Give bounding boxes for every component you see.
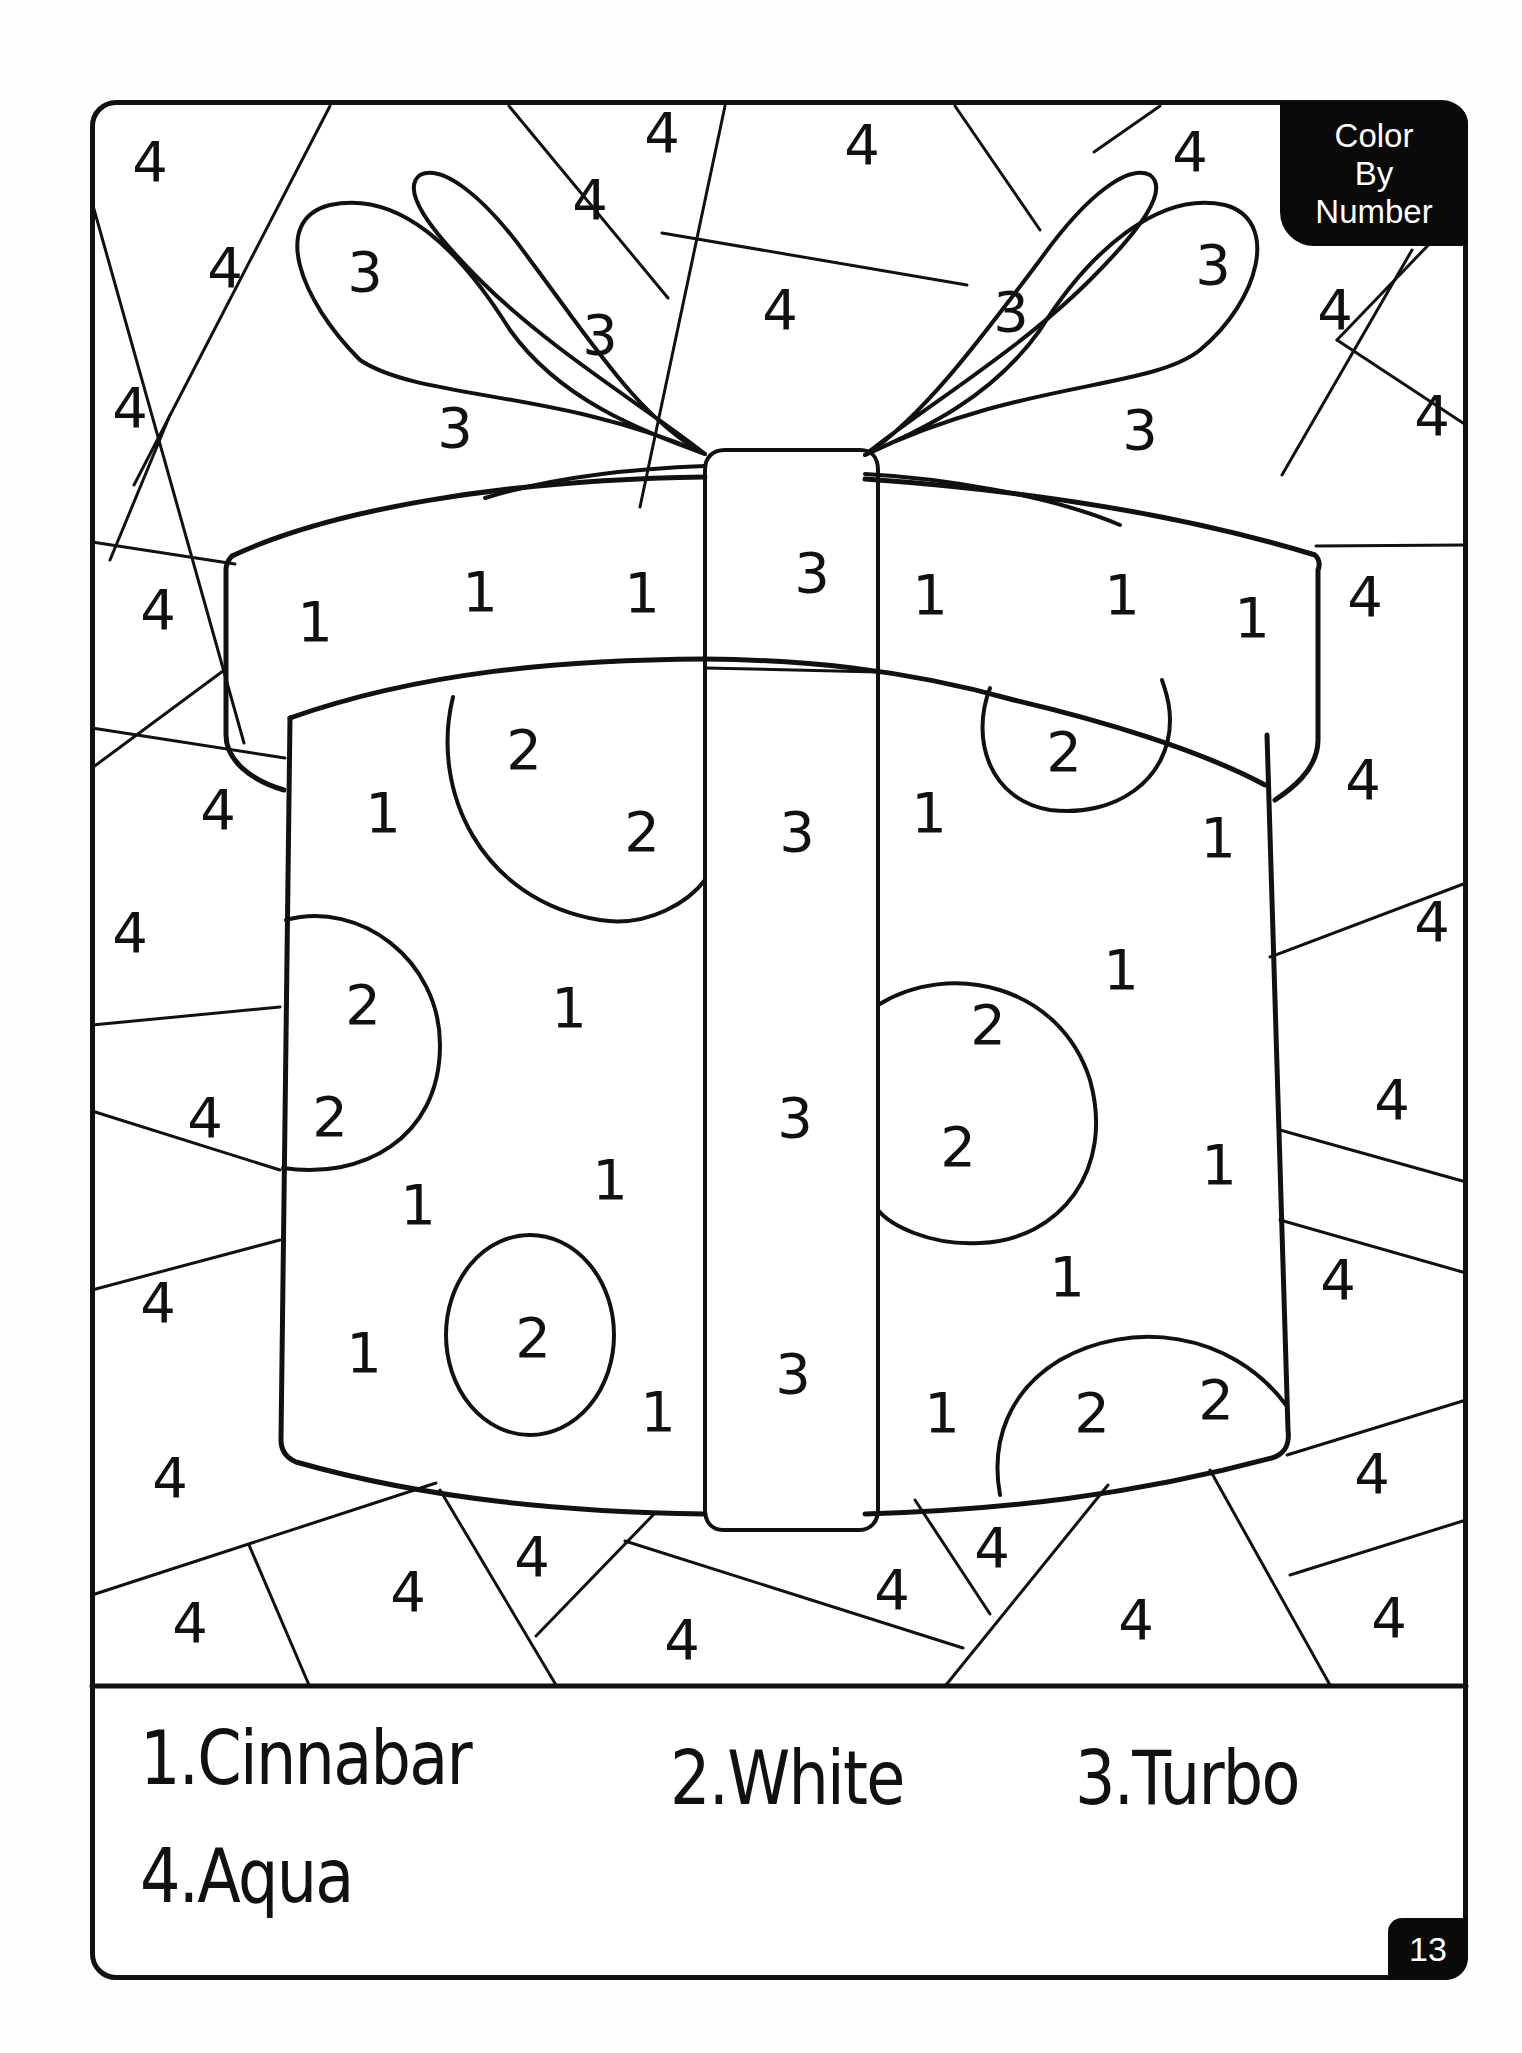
region-number-background: 4 — [1374, 1072, 1410, 1128]
region-number-box: 1 — [592, 1152, 628, 1208]
region-number-lid: 1 — [297, 594, 333, 650]
region-number-background: 4 — [1345, 752, 1381, 808]
region-number-box: 2 — [624, 804, 660, 860]
region-number-lid: 1 — [912, 567, 948, 623]
legend-item-3: 3.Turbo — [1075, 1735, 1299, 1821]
region-number-background: 4 — [1320, 1252, 1356, 1308]
legend-item-1: 1.Cinnabar — [140, 1715, 471, 1801]
region-number-background: 4 — [1414, 894, 1450, 950]
region-number-background: 4 — [1317, 282, 1353, 338]
region-number-bow: 3 — [1122, 402, 1158, 458]
region-number-box: 1 — [924, 1385, 960, 1441]
region-number-background: 4 — [572, 172, 608, 228]
region-number-background: 4 — [152, 1450, 188, 1506]
region-number-box: 3 — [777, 1090, 813, 1146]
region-number-background: 4 — [140, 582, 176, 638]
region-number-background: 4 — [874, 1562, 910, 1618]
badge-line-3: Number — [1315, 193, 1432, 231]
region-number-background: 4 — [1414, 388, 1450, 444]
region-number-box: 1 — [1103, 942, 1139, 998]
region-number-background: 4 — [187, 1090, 223, 1146]
region-number-background: 4 — [200, 782, 236, 838]
bow — [297, 173, 1257, 525]
region-number-box: 2 — [312, 1089, 348, 1145]
region-number-background: 4 — [1172, 124, 1208, 180]
region-number-box: 3 — [775, 1346, 811, 1402]
region-number-box: 1 — [365, 785, 401, 841]
region-number-box: 3 — [779, 804, 815, 860]
region-number-box: 1 — [911, 785, 947, 841]
region-number-background: 4 — [644, 105, 680, 161]
region-number-lid: 1 — [462, 564, 498, 620]
region-number-box: 2 — [345, 977, 381, 1033]
region-number-background: 4 — [514, 1529, 550, 1585]
region-number-background: 4 — [974, 1520, 1010, 1576]
background-lines — [92, 106, 1466, 1686]
region-number-box: 2 — [940, 1119, 976, 1175]
region-number-box: 1 — [551, 980, 587, 1036]
gift-lid — [226, 477, 1319, 800]
region-number-background: 4 — [762, 282, 798, 338]
region-number-box: 1 — [1200, 810, 1236, 866]
region-number-background: 4 — [112, 380, 148, 436]
color-by-number-badge: Color By Number — [1280, 102, 1468, 246]
region-number-background: 4 — [844, 117, 880, 173]
legend-item-2: 2.White — [670, 1735, 904, 1821]
region-number-box: 2 — [1198, 1372, 1234, 1428]
region-number-background: 4 — [172, 1595, 208, 1651]
region-number-background: 4 — [390, 1564, 426, 1620]
region-number-background: 4 — [1118, 1592, 1154, 1648]
region-number-bow: 3 — [437, 400, 473, 456]
region-number-box: 2 — [506, 722, 542, 778]
region-number-background: 4 — [1371, 1590, 1407, 1646]
region-number-background: 4 — [664, 1612, 700, 1668]
badge-line-1: Color — [1335, 117, 1414, 155]
region-number-box: 1 — [400, 1177, 436, 1233]
region-number-lid: 3 — [794, 545, 830, 601]
region-number-bow: 3 — [347, 244, 383, 300]
region-number-box: 1 — [1049, 1249, 1085, 1305]
region-number-box: 1 — [1201, 1137, 1237, 1193]
color-legend: 1.Cinnabar 2.White 3.Turbo 4.Aqua — [140, 1715, 1440, 1915]
region-number-lid: 1 — [1234, 590, 1270, 646]
region-number-background: 4 — [140, 1275, 176, 1331]
region-number-bow: 3 — [1195, 237, 1231, 293]
region-number-background: 4 — [1354, 1446, 1390, 1502]
region-number-box: 2 — [515, 1310, 551, 1366]
region-number-background: 4 — [132, 134, 168, 190]
coloring-page: Color By Number 444444444444444444444444… — [0, 0, 1522, 2053]
region-number-lid: 1 — [624, 565, 660, 621]
region-number-background: 4 — [207, 240, 243, 296]
region-number-box: 1 — [346, 1325, 382, 1381]
region-number-box: 2 — [1046, 724, 1082, 780]
region-number-box: 2 — [1074, 1385, 1110, 1441]
page-number-badge: 13 — [1388, 1918, 1468, 1980]
region-number-box: 2 — [970, 997, 1006, 1053]
region-number-bow: 3 — [582, 307, 618, 363]
badge-line-2: By — [1355, 155, 1394, 193]
region-number-lid: 1 — [1104, 567, 1140, 623]
page-number: 13 — [1409, 1930, 1447, 1969]
region-number-background: 4 — [1347, 569, 1383, 625]
legend-item-4: 4.Aqua — [140, 1833, 353, 1919]
region-number-background: 4 — [112, 905, 148, 961]
region-number-box: 1 — [640, 1384, 676, 1440]
region-number-bow: 3 — [993, 284, 1029, 340]
